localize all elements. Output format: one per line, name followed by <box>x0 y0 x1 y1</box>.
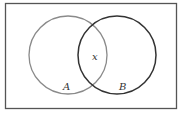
universal-set-rectangle <box>6 4 177 109</box>
set-b-label: B <box>118 81 126 92</box>
venn-diagram: A B x <box>0 0 179 117</box>
intersection-label: x <box>92 51 98 62</box>
set-b-circle <box>78 16 156 94</box>
set-a-label: A <box>62 81 70 92</box>
